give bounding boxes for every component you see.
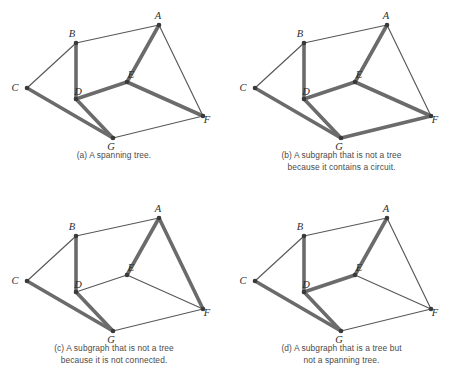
graph-vertex-label-E: E [127,262,135,273]
graph-edge-DE [304,82,355,99]
graph-edge-DE [76,82,127,99]
figure-panel-d: ABCDEFG(d) A subgraph that is a tree but… [228,193,455,386]
figure-panel-b: ABCDEFG(b) A subgraph that is not a tree… [228,0,455,193]
graph-vertex-A [157,216,162,221]
graph-vertex-label-E: E [355,262,363,273]
caption-line: (d) A subgraph that is a tree but [242,343,441,355]
graph-vertex-label-F: F [203,114,211,125]
graph-vertex-E [125,80,130,85]
graph-vertex-label-F: F [431,307,439,318]
graph-edge-AF [159,218,203,309]
graph-vertex-label-F: F [203,307,211,318]
graph-edge-GF [113,309,203,331]
figure-caption-c: (c) A subgraph that is not a treebecause… [0,343,228,366]
graph-diagram-b: ABCDEFG [228,0,455,150]
graph-vertex-C [253,86,258,91]
graph-vertex-C [253,279,258,284]
graph-vertex-D [74,290,79,295]
figure-caption-b: (b) A subgraph that is not a treebecause… [228,150,455,173]
graph-vertex-label-B: B [69,221,76,232]
graph-edge-AF [387,218,431,309]
graph-edge-CG [27,88,113,138]
graph-edge-BC [255,43,304,88]
figure-panel-c: ABCDEFG(c) A subgraph that is not a tree… [0,193,228,386]
graph-vertex-label-E: E [355,69,363,80]
figure-caption-d: (d) A subgraph that is a tree butnot a s… [228,343,455,366]
graph-edge-GF [341,116,431,138]
graph-diagram-c: ABCDEFG [0,193,228,343]
graph-vertex-A [385,23,390,28]
graph-vertex-label-D: D [301,279,310,290]
graph-vertex-label-D: D [301,86,310,97]
graph-edge-AF [387,25,431,116]
graph-vertex-label-A: A [154,10,162,21]
graph-edge-AF [159,25,203,116]
graph-vertex-label-B: B [69,28,76,39]
graph-vertex-E [125,273,130,278]
graph-edge-AB [76,218,159,236]
graph-edge-BC [27,43,76,88]
graph-vertex-B [74,234,79,239]
figure-panel-a: ABCDEFG(a) A spanning tree. [0,0,228,193]
graph-vertex-A [157,23,162,28]
graph-edge-EF [355,82,431,116]
graph-diagram-d: ABCDEFG [228,193,455,343]
graph-vertex-B [302,41,307,46]
graph-vertex-label-C: C [11,82,19,93]
graph-edge-GF [341,309,431,331]
graph-vertex-label-D: D [73,279,82,290]
graph-edge-EF [127,82,203,116]
graph-vertex-label-B: B [297,28,304,39]
graph-vertex-D [302,97,307,102]
graph-vertex-G [339,329,344,334]
graph-vertex-label-B: B [297,221,304,232]
caption-line: because it is not connected. [14,355,214,367]
graph-edge-AB [304,25,387,43]
graph-vertex-label-C: C [239,275,247,286]
caption-line: because it contains a circuit. [242,162,441,174]
graph-vertex-label-A: A [382,10,390,21]
graph-edge-GF [113,116,203,138]
graph-edge-CG [255,281,341,331]
graph-vertex-C [25,279,30,284]
graph-edge-BC [27,236,76,281]
graph-vertex-A [385,216,390,221]
caption-line: not a spanning tree. [242,355,441,367]
caption-line: (c) A subgraph that is not a tree [14,343,214,355]
graph-edge-AB [304,218,387,236]
graph-vertex-label-A: A [382,203,390,214]
graph-vertex-D [74,97,79,102]
graph-vertex-label-E: E [127,69,135,80]
graph-vertex-G [111,136,116,141]
graph-diagram-a: ABCDEFG [0,0,228,150]
graph-vertex-label-C: C [239,82,247,93]
graph-vertex-label-F: F [431,114,439,125]
graph-vertex-G [111,329,116,334]
graph-vertex-C [25,86,30,91]
graph-edge-CG [27,281,113,331]
graph-vertex-G [339,136,344,141]
graph-vertex-B [302,234,307,239]
figure-caption-a: (a) A spanning tree. [0,150,228,162]
graph-vertex-E [353,273,358,278]
graph-edge-AB [76,25,159,43]
graph-vertex-label-C: C [11,275,19,286]
graph-vertex-label-D: D [73,86,82,97]
caption-line: (b) A subgraph that is not a tree [242,150,441,162]
graph-edge-EF [355,275,431,309]
graph-vertex-B [74,41,79,46]
graph-edge-BC [255,236,304,281]
graph-edge-DE [76,275,127,292]
graph-vertex-E [353,80,358,85]
graph-edge-CG [255,88,341,138]
graph-vertex-D [302,290,307,295]
graph-edge-DE [304,275,355,292]
graph-edge-EF [127,275,203,309]
graph-vertex-label-A: A [154,203,162,214]
caption-line: (a) A spanning tree. [14,150,214,162]
figure-panel-grid: ABCDEFG(a) A spanning tree.ABCDEFG(b) A … [0,0,455,386]
